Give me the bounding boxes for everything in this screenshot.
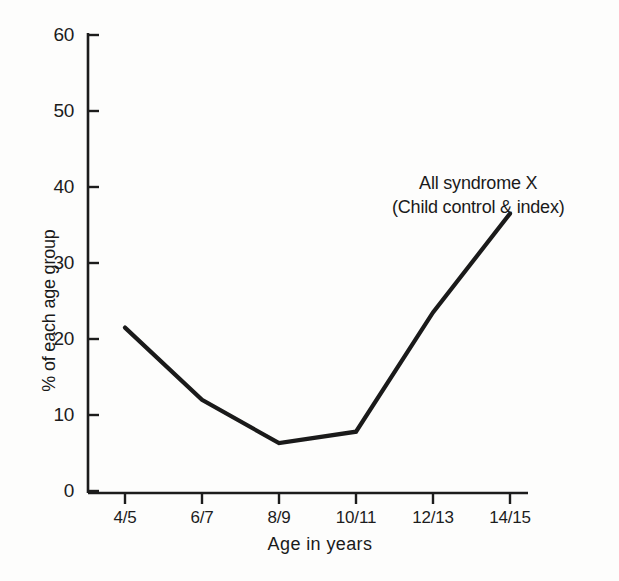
x-tick-label: 4/5: [113, 508, 136, 528]
chart-figure: 60 50 40 30 20 10 0 4/5 6/7 8/9 10/11 12…: [0, 0, 619, 581]
y-tick-label: 50: [34, 100, 74, 122]
series-annotation-line-1: All syndrome X: [392, 172, 564, 196]
plot-area: [0, 0, 619, 581]
y-axis-title: % of each age group: [39, 196, 60, 426]
x-tick-label: 12/13: [412, 508, 454, 528]
data-series-line: [125, 214, 510, 444]
series-annotation: All syndrome X (Child control & index): [392, 172, 564, 220]
x-tick-marks: [125, 493, 510, 504]
y-tick-marks: [88, 35, 99, 491]
y-tick-label: 60: [34, 24, 74, 46]
series-annotation-line-2: (Child control & index): [392, 196, 564, 220]
x-tick-label: 8/9: [267, 508, 290, 528]
x-tick-label: 6/7: [190, 508, 213, 528]
x-tick-label: 10/11: [336, 508, 376, 528]
y-tick-label: 0: [34, 480, 74, 502]
x-tick-label: 14/15: [489, 508, 531, 528]
x-axis-title: Age in years: [180, 534, 460, 555]
